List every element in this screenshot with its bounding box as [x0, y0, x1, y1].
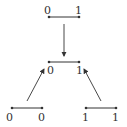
node-bottom-right: 1 1: [82, 107, 119, 124]
node-bottom-left: 0 0: [6, 107, 45, 124]
diagram-canvas: 0 1 0 1 0 0 1 1: [0, 0, 127, 127]
label-bottom-left-right: 0: [38, 111, 45, 124]
label-bottom-left-left: 0: [6, 111, 13, 124]
label-top-left: 0: [44, 4, 51, 17]
label-top-right: 1: [75, 4, 82, 17]
label-middle-right: 1: [76, 64, 83, 77]
label-bottom-right-left: 1: [82, 111, 89, 124]
node-middle: 0 1: [47, 61, 83, 77]
label-middle-left: 0: [47, 64, 54, 77]
node-top: 0 1: [44, 4, 82, 18]
arrow-bottom-right-to-middle: [84, 69, 101, 101]
label-bottom-right-right: 1: [112, 111, 119, 124]
arrow-bottom-left-to-middle: [27, 69, 44, 101]
